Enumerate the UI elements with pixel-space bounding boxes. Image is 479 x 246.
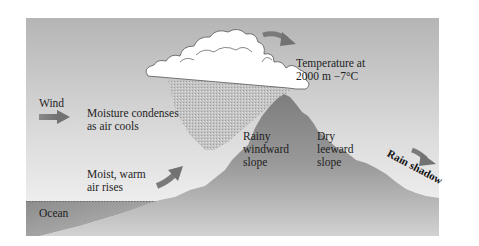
ocean-label: Ocean xyxy=(39,207,68,220)
moisture-condenses-label: Moisture condenses as air cools xyxy=(87,107,179,133)
rain-shadow-diagram xyxy=(0,0,479,246)
moist-warm-air-label: Moist, warm air rises xyxy=(87,168,146,194)
rainy-windward-slope-label: Rainy windward slope xyxy=(243,130,289,169)
wind-label: Wind xyxy=(39,97,64,110)
dry-leeward-slope-label: Dry leeward slope xyxy=(317,130,353,169)
temperature-label: Temperature at 2000 m −7°C xyxy=(296,57,365,83)
